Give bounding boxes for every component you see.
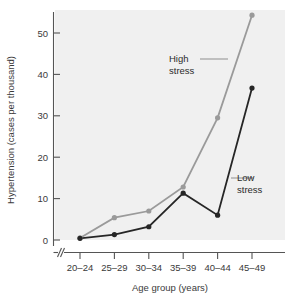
x-axis-break-icon [58,248,65,257]
y-tick-label-0: 0 [43,235,48,246]
high-stress-label-line1: High [169,53,189,64]
x-tick-label-25-29: 25–29 [101,262,127,273]
x-axis-ticks [80,253,252,260]
data-point [181,191,186,196]
hypertension-line-chart: 0 10 20 30 40 50 20–24 25–29 30–34 35–39… [0,0,291,301]
x-tick-label-40-44: 40–44 [204,262,230,273]
chart-container: 0 10 20 30 40 50 20–24 25–29 30–34 35–39… [0,0,291,301]
y-axis-title: Hypertension (cases per thousand) [5,56,16,204]
data-point [249,85,254,90]
x-tick-label-45-49: 45–49 [239,262,265,273]
y-tick-label-10: 10 [37,193,48,204]
data-point [77,236,82,241]
y-tick-label-40: 40 [37,69,48,80]
data-point [249,13,254,18]
data-point [215,213,220,218]
data-point [215,115,220,120]
x-tick-label-30-34: 30–34 [136,262,162,273]
y-tick-label-30: 30 [37,110,48,121]
x-tick-label-20-24: 20–24 [67,262,93,273]
data-point [112,215,117,220]
x-axis-title: Age group (years) [132,282,208,293]
y-tick-label-20: 20 [37,152,48,163]
data-point [146,224,151,229]
high-stress-label-line2: stress [169,65,195,76]
x-tick-label-35-39: 35–39 [170,262,196,273]
low-stress-label-line1: Low [237,172,255,183]
low-stress-label-line2: stress [237,184,263,195]
data-point [146,208,151,213]
data-point [181,184,186,189]
y-tick-label-50: 50 [37,28,48,39]
data-point [112,232,117,237]
